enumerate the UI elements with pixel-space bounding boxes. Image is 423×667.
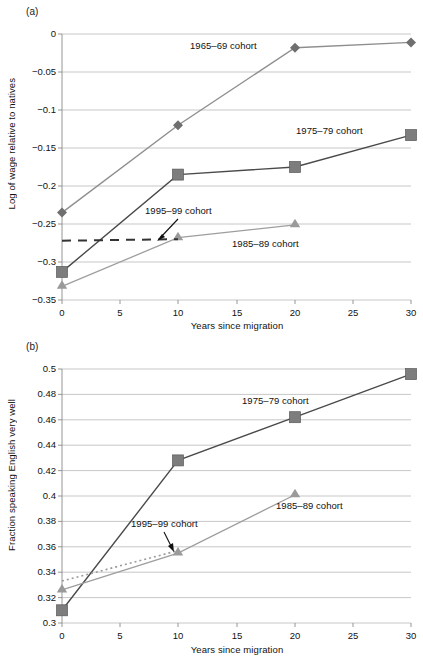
panel-a-series-label-1995-99: 1995–99 cohort — [145, 205, 212, 216]
panel-b-series-1975-79 — [57, 369, 417, 616]
panel-b-series-label-1975-79: 1975–79 cohort — [242, 395, 309, 406]
panel-b-ytick-1: 0.48 — [12, 388, 56, 399]
panel-a-xtick-1: 5 — [105, 307, 135, 318]
panel-b-xtick-1: 5 — [105, 630, 135, 641]
panel-a-series-label-1965-69: 1965–69 cohort — [190, 40, 257, 51]
panel-b-ytick-8: 0.34 — [12, 566, 56, 577]
panel-a-y-ticks — [58, 34, 62, 300]
panel-b-x-ticks — [62, 623, 411, 627]
panel-a-x-axis-title: Years since migration — [162, 320, 312, 331]
panel-a-xtick-0: 0 — [47, 307, 77, 318]
panel-b-ytick-3: 0.44 — [12, 439, 56, 450]
panel-b-ytick-9: 0.32 — [12, 592, 56, 603]
panel-a-ytick-7: −0.35 — [12, 294, 56, 305]
panel-a-series-label-1985-89: 1985–89 cohort — [232, 238, 299, 249]
panel-a-series-1975-79 — [57, 130, 417, 278]
panel-a-ytick-4: −0.2 — [12, 180, 56, 191]
chart-panel-b: (b) Fraction speaking English very well — [0, 333, 423, 667]
panel-b-xtick-6: 30 — [396, 630, 423, 641]
panel-a-xtick-4: 20 — [280, 307, 310, 318]
panel-a-series-1995-99 — [62, 239, 178, 241]
panel-b-ytick-5: 0.4 — [12, 490, 56, 501]
panel-a-xtick-3: 15 — [222, 307, 252, 318]
panel-b-xtick-3: 15 — [222, 630, 252, 641]
panel-b-ytick-4: 0.42 — [12, 465, 56, 476]
panel-a-ytick-5: −0.25 — [12, 218, 56, 229]
panel-b-xtick-2: 10 — [163, 630, 193, 641]
panel-b-ytick-0: 0.5 — [12, 363, 56, 374]
panel-a-ytick-1: −0.05 — [12, 66, 56, 77]
figure-container: (a) Log of wage relative to natives — [0, 0, 423, 667]
panel-b-ytick-6: 0.38 — [12, 515, 56, 526]
panel-b-gridlines — [62, 369, 411, 623]
panel-a-gridlines — [62, 34, 411, 300]
panel-b-plot — [0, 333, 423, 667]
panel-b-ytick-7: 0.36 — [12, 541, 56, 552]
panel-a-xtick-5: 25 — [338, 307, 368, 318]
panel-a-ytick-2: −0.1 — [12, 104, 56, 115]
panel-b-series-label-1985-89: 1985–89 cohort — [276, 500, 343, 511]
panel-b-annotation-arrow — [164, 532, 174, 552]
panel-a-ytick-0: 0 — [12, 28, 56, 39]
panel-b-series-label-1995-99: 1995–99 cohort — [131, 518, 198, 529]
panel-b-xtick-4: 20 — [280, 630, 310, 641]
panel-a-ytick-6: −0.3 — [12, 256, 56, 267]
panel-b-xtick-0: 0 — [47, 630, 77, 641]
panel-a-ytick-3: −0.15 — [12, 142, 56, 153]
panel-b-x-axis-title: Years since migration — [162, 644, 312, 655]
panel-b-xtick-5: 25 — [338, 630, 368, 641]
panel-a-series-1985-89 — [57, 219, 300, 289]
panel-a-xtick-2: 10 — [163, 307, 193, 318]
panel-a-x-ticks — [62, 300, 411, 304]
chart-panel-a: (a) Log of wage relative to natives — [0, 0, 423, 334]
panel-b-series-1995-99 — [62, 551, 178, 582]
panel-a-series-label-1975-79: 1975–79 cohort — [296, 125, 363, 136]
panel-b-ytick-10: 0.3 — [12, 617, 56, 628]
panel-b-ytick-2: 0.46 — [12, 414, 56, 425]
panel-a-xtick-6: 30 — [396, 307, 423, 318]
panel-b-series-1985-89 — [57, 489, 300, 593]
